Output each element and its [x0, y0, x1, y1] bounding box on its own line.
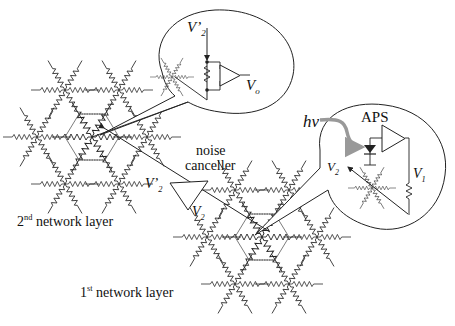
v1-label: V1: [413, 167, 426, 184]
second-layer-label: 2nd network layer: [17, 214, 113, 229]
first-layer-label: 1st network layer: [80, 285, 173, 300]
aps-label: APS: [361, 110, 389, 125]
hv-label: hν: [303, 113, 319, 130]
noise-label: noise: [196, 144, 226, 158]
v2-prime-top-label: V’2: [187, 20, 206, 38]
diagram-canvas: V’2 Vo hν APS V2 V1 noise canceller V’2 …: [0, 0, 455, 326]
v2-inset-label: V2: [327, 160, 339, 176]
canceller-label: canceller: [185, 159, 236, 173]
vo-label: Vo: [246, 78, 260, 96]
v2-mid-label: V2: [192, 205, 205, 222]
v2-prime-mid-label: V’2: [145, 177, 162, 194]
